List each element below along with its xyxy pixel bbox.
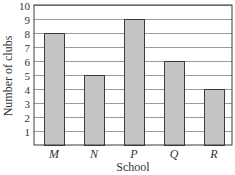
x-tick-label: R [209, 147, 218, 161]
x-tick-label: N [89, 147, 99, 161]
y-axis-ticks: 12345678910 [19, 0, 31, 138]
bar-p [125, 20, 145, 146]
bar-q [165, 62, 185, 146]
y-tick-label: 3 [25, 98, 31, 110]
y-tick-label: 10 [19, 0, 31, 12]
x-tick-label: M [48, 147, 60, 161]
x-tick-label: Q [170, 147, 179, 161]
bar-n [85, 76, 105, 146]
y-tick-label: 4 [25, 84, 31, 96]
x-axis-title: School [116, 160, 150, 174]
bars [45, 20, 225, 146]
bar-r [205, 90, 225, 146]
y-tick-label: 7 [25, 42, 31, 54]
y-tick-label: 5 [25, 70, 31, 82]
x-tick-label: P [129, 147, 138, 161]
y-tick-label: 9 [25, 14, 31, 26]
bar-chart: 12345678910 MNPQR Number of clubs School [0, 0, 235, 175]
y-tick-label: 8 [25, 28, 31, 40]
bar-m [45, 34, 65, 146]
y-tick-label: 2 [25, 112, 31, 124]
y-tick-label: 1 [25, 126, 31, 138]
y-tick-label: 6 [25, 56, 31, 68]
y-axis-title: Number of clubs [1, 35, 15, 116]
x-axis-ticks: MNPQR [48, 147, 218, 161]
